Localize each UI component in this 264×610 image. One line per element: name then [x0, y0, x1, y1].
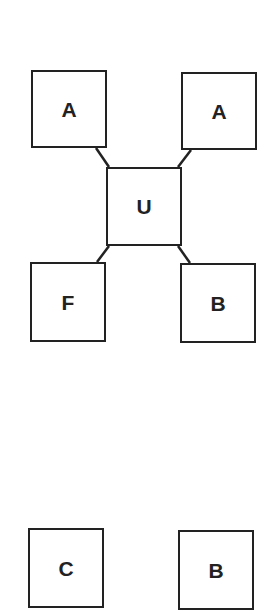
node-label: U	[136, 196, 151, 217]
node-u-center: U	[106, 167, 182, 246]
node-label: A	[61, 99, 76, 120]
edge-a-left-to-u	[96, 148, 109, 167]
edge-a-right-to-u	[178, 150, 191, 167]
edge-u-to-f	[97, 246, 109, 262]
node-label: B	[210, 293, 225, 314]
node-label: F	[62, 292, 75, 313]
node-label: A	[211, 101, 226, 122]
node-b-upper: B	[180, 263, 256, 343]
node-a-left: A	[31, 70, 107, 148]
node-label: B	[208, 560, 223, 581]
node-c: C	[28, 528, 104, 608]
edge-u-to-b-upper	[178, 246, 190, 263]
node-a-right: A	[181, 72, 257, 150]
node-f: F	[30, 262, 106, 342]
node-b-lower: B	[178, 530, 254, 610]
node-label: C	[58, 558, 73, 579]
